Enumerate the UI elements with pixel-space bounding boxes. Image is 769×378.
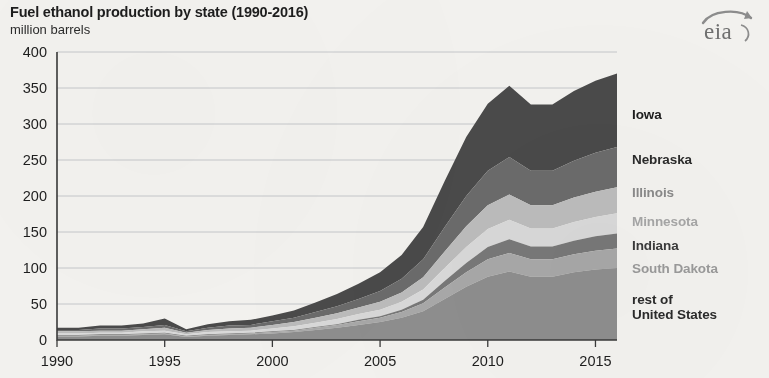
- area-series-group: [57, 74, 617, 340]
- legend-item-rest-of[interactable]: rest ofUnited States: [632, 292, 717, 322]
- y-tick-label: 100: [23, 260, 47, 276]
- legend-label-text: Iowa: [632, 107, 662, 122]
- y-tick-label: 250: [23, 152, 47, 168]
- x-tick-label: 2000: [256, 353, 288, 369]
- legend-item-minnesota[interactable]: Minnesota: [632, 214, 698, 229]
- y-axis-tick-labels: 050100150200250300350400: [23, 44, 47, 348]
- x-tick-label: 2010: [472, 353, 504, 369]
- y-tick-label: 400: [23, 44, 47, 60]
- legend-label-text: rest of: [632, 292, 717, 307]
- x-tick-label: 2015: [579, 353, 611, 369]
- y-tick-label: 0: [39, 332, 47, 348]
- y-tick-label: 50: [31, 296, 47, 312]
- y-tick-label: 150: [23, 224, 47, 240]
- x-tick-label: 1995: [149, 353, 181, 369]
- legend-item-indiana[interactable]: Indiana: [632, 238, 679, 253]
- legend-label-text: Nebraska: [632, 152, 692, 167]
- y-tick-label: 300: [23, 116, 47, 132]
- legend-label-text: South Dakota: [632, 261, 718, 276]
- x-axis-tick-labels: 199019952000200520102015: [41, 353, 612, 369]
- legend-item-iowa[interactable]: Iowa: [632, 107, 662, 122]
- x-tick-label: 2005: [364, 353, 396, 369]
- legend-item-south-dakota[interactable]: South Dakota: [632, 261, 718, 276]
- y-tick-label: 200: [23, 188, 47, 204]
- x-tick-label: 1990: [41, 353, 73, 369]
- legend-item-nebraska[interactable]: Nebraska: [632, 152, 692, 167]
- legend-label-text: Minnesota: [632, 214, 698, 229]
- y-tick-label: 350: [23, 80, 47, 96]
- chart-container: Fuel ethanol production by state (1990-2…: [0, 0, 769, 378]
- legend-item-illinois[interactable]: Illinois: [632, 185, 674, 200]
- legend-label-text: Illinois: [632, 185, 674, 200]
- legend-label-text: United States: [632, 307, 717, 322]
- legend-label-text: Indiana: [632, 238, 679, 253]
